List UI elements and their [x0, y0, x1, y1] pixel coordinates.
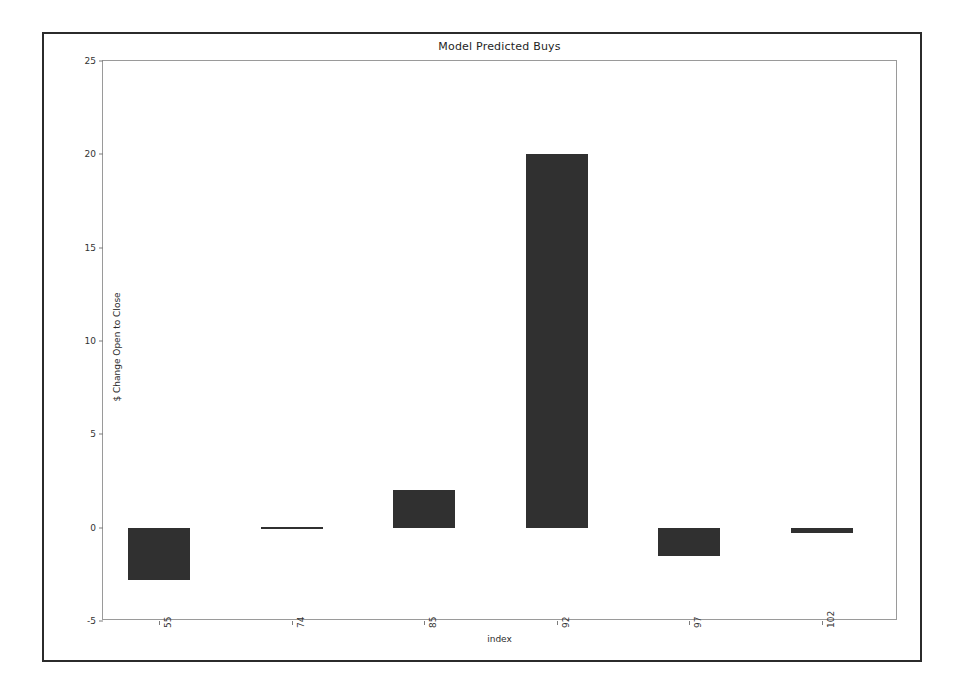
y-tick-mark	[99, 621, 103, 622]
x-tick-mark	[557, 621, 558, 625]
figure-frame: Model Predicted Buys 2520151050-5 557485…	[42, 32, 922, 662]
x-tick-mark	[424, 621, 425, 625]
x-tick-mark	[292, 621, 293, 625]
bar	[791, 528, 853, 534]
y-axis-label: $ Change Open to Close	[112, 292, 122, 401]
bars-layer	[103, 61, 896, 619]
plot-area: 2520151050-5 5574859297102	[102, 60, 897, 620]
x-tick-mark	[822, 621, 823, 625]
bar	[128, 528, 190, 580]
bar	[658, 528, 720, 556]
chart-title: Model Predicted Buys	[102, 40, 897, 53]
x-tick-mark	[159, 621, 160, 625]
chart-screenshot: Model Predicted Buys 2520151050-5 557485…	[0, 0, 966, 697]
x-axis-label: index	[102, 634, 897, 644]
bar	[526, 154, 588, 527]
bar	[261, 527, 323, 529]
bar	[393, 490, 455, 527]
x-tick-mark	[689, 621, 690, 625]
